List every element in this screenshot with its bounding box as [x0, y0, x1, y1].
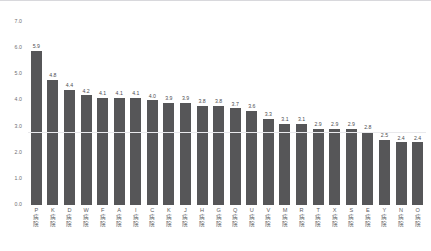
category-suffix-char: 院 [83, 221, 89, 228]
x-axis-tick-label: F病院 [94, 207, 111, 249]
category-letter: F [101, 207, 104, 214]
category-suffix-char: 病 [398, 214, 404, 221]
x-axis-tick-label: G病院 [210, 207, 227, 249]
bar[interactable]: 3.9 [180, 103, 191, 205]
bar[interactable]: 4.0 [147, 100, 158, 205]
x-axis-tick-label: X病院 [326, 207, 343, 249]
bar-series: 5.94.84.44.24.14.14.14.03.93.93.83.83.73… [28, 22, 426, 205]
category-suffix-char: 院 [133, 221, 139, 228]
bar[interactable]: 4.4 [64, 90, 75, 205]
bar-slot: 3.9 [161, 22, 178, 205]
category-suffix-char: 病 [100, 214, 106, 221]
reference-gridline [28, 132, 426, 133]
bar-value-label: 2.8 [364, 125, 371, 130]
bar-value-label: 2.9 [331, 122, 338, 127]
bar-slot: 3.1 [277, 22, 294, 205]
bar-value-label: 5.9 [33, 44, 40, 49]
bar[interactable]: 4.1 [130, 98, 141, 205]
bar[interactable]: 5.9 [31, 51, 42, 205]
bar[interactable]: 2.9 [313, 129, 324, 205]
category-letter: U [250, 207, 254, 214]
category-suffix-char: 院 [216, 221, 222, 228]
category-suffix-char: 院 [50, 221, 56, 228]
bar[interactable]: 4.8 [47, 80, 58, 205]
x-axis-tick-label: T病院 [310, 207, 327, 249]
category-suffix-char: 病 [182, 214, 188, 221]
bar[interactable]: 3.9 [163, 103, 174, 205]
bar-slot: 3.6 [244, 22, 261, 205]
x-axis-tick-label: E病院 [360, 207, 377, 249]
y-axis-tick-label: 3.0 [14, 124, 22, 129]
y-axis-tick-label: 7.0 [14, 19, 22, 24]
bar-slot: 5.9 [28, 22, 45, 205]
category-suffix-char: 院 [33, 221, 39, 228]
category-suffix-char: 院 [398, 221, 404, 228]
bar[interactable]: 2.9 [346, 129, 357, 205]
bar[interactable]: 3.8 [213, 106, 224, 205]
bar-slot: 2.9 [310, 22, 327, 205]
bar[interactable]: 4.2 [81, 95, 92, 205]
bar-slot: 3.7 [227, 22, 244, 205]
bar[interactable]: 2.4 [412, 142, 423, 205]
bar[interactable]: 2.9 [329, 129, 340, 205]
bar-value-label: 4.8 [49, 73, 56, 78]
x-axis-tick-label: S病院 [343, 207, 360, 249]
bar-slot: 2.4 [393, 22, 410, 205]
category-suffix-char: 院 [182, 221, 188, 228]
bar[interactable]: 2.8 [362, 132, 373, 205]
category-suffix-char: 病 [199, 214, 205, 221]
bar-slot: 4.1 [127, 22, 144, 205]
category-suffix-char: 院 [315, 221, 321, 228]
bar[interactable]: 3.1 [296, 124, 307, 205]
bar[interactable]: 3.7 [230, 108, 241, 205]
bar[interactable]: 3.6 [246, 111, 257, 205]
category-letter: X [333, 207, 337, 214]
bar-value-label: 4.1 [116, 91, 123, 96]
category-suffix-char: 病 [415, 214, 421, 221]
x-axis-tick-label: K病院 [45, 207, 62, 249]
category-suffix-char: 病 [232, 214, 238, 221]
bar[interactable]: 4.1 [114, 98, 125, 205]
category-letter: M [283, 207, 288, 214]
y-axis-tick-label: 0.0 [14, 202, 22, 207]
bar-value-label: 4.2 [82, 89, 89, 94]
x-axis-tick-label: J病院 [177, 207, 194, 249]
category-suffix-char: 病 [282, 214, 288, 221]
bar[interactable]: 2.4 [396, 142, 407, 205]
bar-value-label: 3.8 [198, 99, 205, 104]
bar[interactable]: 3.1 [279, 124, 290, 205]
category-letter: W [83, 207, 88, 214]
category-suffix-char: 病 [83, 214, 89, 221]
bar-slot: 2.8 [360, 22, 377, 205]
category-suffix-char: 院 [365, 221, 371, 228]
category-suffix-char: 病 [116, 214, 122, 221]
x-axis-tick-label: O病院 [409, 207, 426, 249]
bar-value-label: 3.8 [215, 99, 222, 104]
category-letter: I [135, 207, 137, 214]
bar[interactable]: 4.1 [97, 98, 108, 205]
category-letter: C [150, 207, 154, 214]
category-letter: A [117, 207, 121, 214]
category-letter: Y [383, 207, 387, 214]
x-axis-tick-label: M病院 [277, 207, 294, 249]
category-letter: E [366, 207, 370, 214]
x-axis-tick-label: D病院 [61, 207, 78, 249]
bar-value-label: 2.5 [381, 133, 388, 138]
y-axis-tick-label: 4.0 [14, 98, 22, 103]
category-letter: V [267, 207, 271, 214]
bar[interactable]: 2.5 [379, 140, 390, 205]
bar-slot: 3.3 [260, 22, 277, 205]
category-suffix-char: 病 [381, 214, 387, 221]
plot-area: 5.94.84.44.24.14.14.14.03.93.93.83.83.73… [28, 22, 426, 205]
bar-slot: 2.9 [343, 22, 360, 205]
bar-value-label: 4.4 [66, 83, 73, 88]
x-axis-tick-label: R病院 [293, 207, 310, 249]
bar[interactable]: 3.8 [197, 106, 208, 205]
category-suffix-char: 院 [66, 221, 72, 228]
x-axis-tick-label: Q病院 [227, 207, 244, 249]
category-letter: G [216, 207, 220, 214]
bar-slot: 4.1 [94, 22, 111, 205]
category-suffix-char: 病 [249, 214, 255, 221]
x-axis-tick-label: C病院 [144, 207, 161, 249]
bar-value-label: 3.9 [165, 96, 172, 101]
